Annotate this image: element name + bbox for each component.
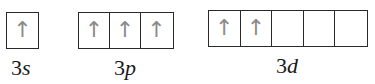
orbital-boxes-3d: ↑ ↑: [208, 10, 368, 47]
spin-up-arrow-icon: ↑: [147, 19, 165, 41]
orbital-box: ↑: [110, 13, 141, 48]
spin-up-arrow-icon: ↑: [85, 19, 103, 41]
orbital-box: ↑: [7, 13, 38, 48]
orbital-box-empty: [304, 11, 336, 46]
spin-up-arrow-icon: ↑: [116, 19, 134, 41]
orbital-box: ↑: [141, 13, 172, 48]
orbital-box: ↑: [79, 13, 110, 48]
subshell-label-3s: 3s: [11, 55, 31, 81]
subshell-label-3p: 3p: [114, 55, 136, 81]
orbital-box: ↑: [209, 11, 241, 46]
orbital-boxes-3p: ↑ ↑ ↑: [78, 12, 174, 49]
subshell-label-3d: 3d: [276, 53, 298, 79]
orbital-box: ↑: [241, 11, 273, 46]
orbital-box-empty: [272, 11, 304, 46]
spin-up-arrow-icon: ↑: [13, 19, 31, 41]
spin-up-arrow-icon: ↑: [215, 17, 233, 39]
spin-up-arrow-icon: ↑: [247, 17, 265, 39]
orbital-boxes-3s: ↑: [6, 12, 39, 49]
orbital-box-empty: [335, 11, 367, 46]
